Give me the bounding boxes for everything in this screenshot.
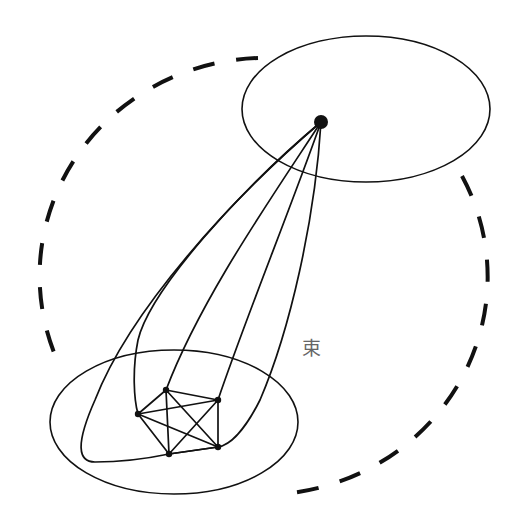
cluster-node-b — [215, 397, 221, 403]
bundle-diagram — [0, 0, 519, 531]
dashed-boundary-right — [282, 176, 488, 494]
dashed-boundary — [40, 58, 258, 362]
cluster-node-d — [166, 451, 172, 457]
cluster-edges — [138, 390, 218, 454]
cluster-node-a — [163, 387, 169, 393]
cluster-node-e — [215, 444, 221, 450]
bundle-label: 束 — [302, 339, 321, 358]
cluster-node-c — [135, 411, 141, 417]
apex-node — [314, 115, 328, 129]
bundle-fibers — [81, 122, 321, 462]
